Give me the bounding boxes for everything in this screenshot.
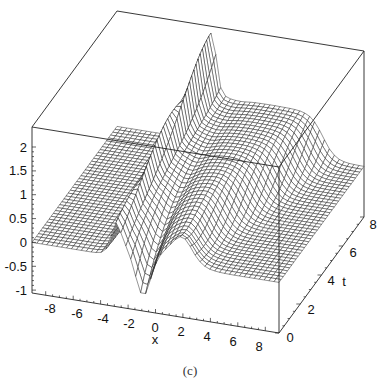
x-tick-label: -8 (44, 302, 56, 315)
t-tick-label: 4 (327, 274, 334, 287)
x-tick-label: -2 (123, 317, 135, 330)
x-tick-label: 4 (203, 330, 210, 343)
t-tick-label: 0 (286, 331, 293, 344)
z-tick-label: -1 (15, 284, 27, 297)
x-tick-label: 2 (177, 325, 184, 338)
z-tick-label: 0.5 (9, 212, 27, 225)
surface-plot (0, 0, 379, 382)
x-tick-label: 6 (229, 335, 236, 348)
x-axis-label: x (152, 333, 159, 346)
z-tick-label: 1 (20, 188, 27, 201)
z-tick-label: 1.5 (9, 164, 27, 177)
z-tick-label: -0.5 (5, 260, 27, 273)
x-tick-label: 8 (255, 340, 262, 353)
x-tick-label: -6 (71, 307, 83, 320)
t-axis-label: t (342, 275, 346, 288)
x-tick-label: -4 (97, 312, 109, 325)
t-tick-label: 6 (349, 246, 356, 259)
z-tick-label: 2 (20, 141, 27, 154)
t-tick-label: 8 (369, 218, 376, 231)
figure-caption: (c) (183, 363, 197, 379)
z-tick-label: 0 (20, 236, 27, 249)
t-tick-label: 2 (307, 303, 314, 316)
surface-mesh (32, 33, 364, 294)
